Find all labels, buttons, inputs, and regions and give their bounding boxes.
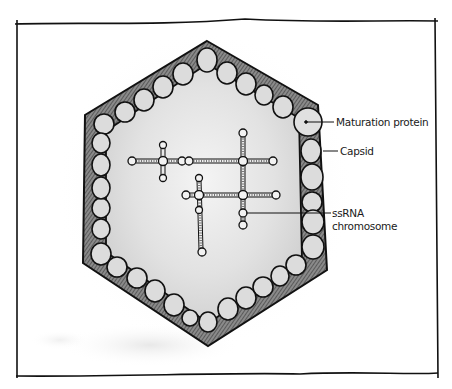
label-chromosome: chromosome (332, 220, 397, 232)
label-capsid: Capsid (340, 145, 374, 157)
label-ssrna: ssRNA (332, 207, 364, 219)
label-maturation-protein: Maturation protein (336, 116, 428, 128)
virus-diagram (0, 0, 452, 389)
